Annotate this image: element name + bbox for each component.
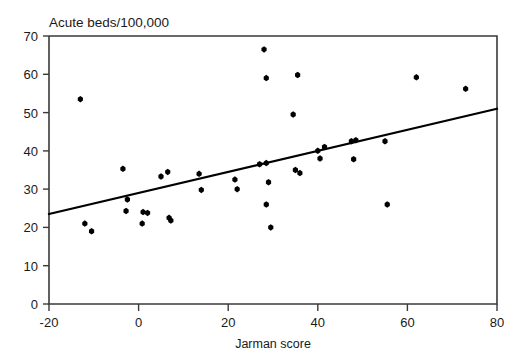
y-tick-label-20: 20 bbox=[24, 220, 38, 235]
y-tick-label-60: 60 bbox=[24, 67, 38, 82]
data-point bbox=[235, 186, 240, 193]
data-point bbox=[232, 176, 237, 183]
data-point bbox=[414, 74, 419, 81]
data-point bbox=[125, 196, 130, 203]
data-point bbox=[264, 201, 269, 208]
x-tick-label-40: 40 bbox=[311, 315, 325, 330]
plot-frame bbox=[49, 36, 497, 304]
data-point bbox=[78, 96, 83, 103]
data-point bbox=[315, 148, 320, 155]
data-point bbox=[317, 155, 322, 162]
data-point bbox=[89, 228, 94, 235]
y-tick-label-0: 0 bbox=[31, 297, 38, 312]
regression-line bbox=[49, 109, 497, 214]
y-tick-label-40: 40 bbox=[24, 144, 38, 159]
data-point bbox=[385, 201, 390, 208]
data-point bbox=[123, 208, 128, 215]
data-point bbox=[140, 209, 145, 216]
data-point bbox=[140, 220, 145, 227]
data-point bbox=[264, 75, 269, 82]
y-axis-ticks: 70 60 50 40 30 20 10 0 bbox=[24, 29, 49, 312]
x-axis-ticks: -20 0 20 40 60 80 bbox=[40, 304, 505, 330]
data-point bbox=[257, 161, 262, 168]
data-point bbox=[145, 210, 150, 217]
data-point bbox=[158, 173, 163, 180]
data-point bbox=[196, 171, 201, 178]
x-tick-label-neg20: -20 bbox=[40, 315, 59, 330]
data-point bbox=[120, 166, 125, 173]
data-point bbox=[266, 179, 271, 186]
x-tick-label-60: 60 bbox=[400, 315, 414, 330]
data-point bbox=[291, 111, 296, 118]
x-axis-title: Jarman score bbox=[235, 337, 311, 351]
chart-svg: Acute beds/100,000 70 60 50 40 30 20 10 … bbox=[0, 0, 519, 361]
data-point bbox=[199, 187, 204, 194]
data-point bbox=[264, 160, 269, 167]
data-point bbox=[293, 167, 298, 174]
data-point bbox=[382, 138, 387, 145]
y-axis-title: Acute beds/100,000 bbox=[49, 15, 169, 30]
data-point bbox=[297, 170, 302, 177]
x-tick-label-20: 20 bbox=[221, 315, 235, 330]
y-tick-label-30: 30 bbox=[24, 182, 38, 197]
data-point bbox=[351, 156, 356, 163]
x-tick-label-0: 0 bbox=[135, 315, 142, 330]
y-tick-label-50: 50 bbox=[24, 106, 38, 121]
data-point bbox=[463, 86, 468, 93]
data-point bbox=[295, 72, 300, 79]
data-point bbox=[261, 46, 266, 53]
scatter-chart: Acute beds/100,000 70 60 50 40 30 20 10 … bbox=[0, 0, 519, 361]
y-tick-label-10: 10 bbox=[24, 259, 38, 274]
data-point bbox=[82, 220, 87, 227]
data-point bbox=[165, 169, 170, 176]
data-point bbox=[268, 224, 273, 231]
y-tick-label-70: 70 bbox=[24, 29, 38, 44]
scatter-points-layer bbox=[78, 46, 468, 234]
x-tick-label-80: 80 bbox=[490, 315, 504, 330]
